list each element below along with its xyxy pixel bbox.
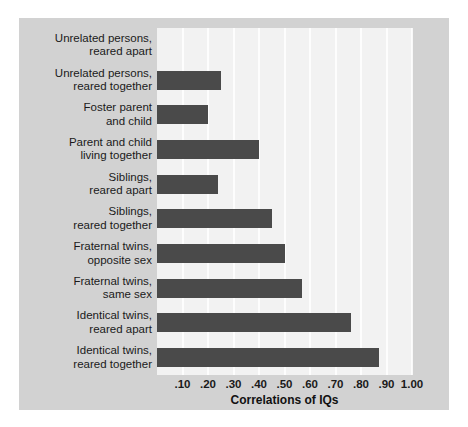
x-tick-label: .20 — [200, 378, 216, 390]
category-label-line: Foster parent — [84, 101, 152, 115]
chart-figure: Unrelated persons,reared apartUnrelated … — [0, 0, 468, 427]
chart-panel: Unrelated persons,reared apartUnrelated … — [19, 18, 449, 410]
x-tick-label: .80 — [353, 378, 369, 390]
category-label-line: living together — [80, 149, 152, 163]
bar — [157, 105, 208, 124]
category-label-line: Parent and child — [69, 136, 152, 150]
category-label-line: Fraternal twins, — [73, 240, 152, 254]
bar — [157, 279, 302, 298]
category-label: Fraternal twins,opposite sex — [19, 236, 152, 271]
x-tick-label: 1.00 — [401, 378, 423, 390]
bar-row — [157, 202, 412, 237]
category-label: Siblings,reared apart — [19, 167, 152, 202]
category-axis-labels: Unrelated persons,reared apartUnrelated … — [19, 28, 152, 375]
x-tick-label: .40 — [251, 378, 267, 390]
bar-series — [157, 28, 412, 375]
category-label-line: reared together — [73, 358, 152, 372]
category-label: Fraternal twins,same sex — [19, 271, 152, 306]
category-label-line: Identical twins, — [77, 309, 152, 323]
category-label-line: same sex — [103, 288, 152, 302]
bar — [157, 71, 221, 90]
category-label-line: Siblings, — [109, 171, 152, 185]
bar — [157, 313, 351, 332]
category-label-line: reared apart — [89, 323, 152, 337]
category-label: Siblings,reared together — [19, 202, 152, 237]
category-label-line: Unrelated persons, — [55, 32, 152, 46]
category-label-line: Unrelated persons, — [55, 67, 152, 81]
bar-row — [157, 97, 412, 132]
x-tick-label: .50 — [277, 378, 293, 390]
x-tick-label: .10 — [175, 378, 191, 390]
category-label: Parent and childliving together — [19, 132, 152, 167]
x-axis-tick-labels: .10.20.30.40.50.60.70.80.901.00 — [157, 378, 427, 394]
bar-row — [157, 340, 412, 375]
category-label-line: reared apart — [89, 45, 152, 59]
bar — [157, 244, 285, 263]
bar-row — [157, 28, 412, 63]
category-label-line: opposite sex — [87, 254, 152, 268]
category-label-line: reared together — [73, 219, 152, 233]
category-label-line: reared apart — [89, 184, 152, 198]
category-label: Identical twins,reared together — [19, 340, 152, 375]
x-tick-label: .30 — [226, 378, 242, 390]
category-label-line: Identical twins, — [77, 344, 152, 358]
category-label-line: Fraternal twins, — [73, 275, 152, 289]
category-label: Foster parentand child — [19, 97, 152, 132]
bar-row — [157, 306, 412, 341]
bar — [157, 140, 259, 159]
bar — [157, 175, 218, 194]
bar — [157, 209, 272, 228]
chart-body: Unrelated persons,reared apartUnrelated … — [19, 18, 449, 410]
bar-row — [157, 63, 412, 98]
category-label: Unrelated persons,reared together — [19, 63, 152, 98]
x-tick-label: .60 — [302, 378, 318, 390]
x-tick-label: .70 — [328, 378, 344, 390]
category-label: Identical twins,reared apart — [19, 306, 152, 341]
bar-row — [157, 167, 412, 202]
category-label-line: Siblings, — [109, 205, 152, 219]
x-axis-title: Correlations of IQs — [157, 393, 412, 407]
bar — [157, 348, 379, 367]
bar-row — [157, 132, 412, 167]
category-label-line: reared together — [73, 80, 152, 94]
category-label-line: and child — [106, 115, 152, 129]
x-tick-label: .90 — [379, 378, 395, 390]
category-label: Unrelated persons,reared apart — [19, 28, 152, 63]
bar-row — [157, 271, 412, 306]
bar-row — [157, 236, 412, 271]
